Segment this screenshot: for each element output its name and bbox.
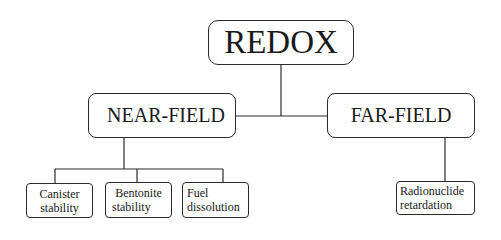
bentonite-stability-node: Bentonite stability xyxy=(105,182,172,218)
radionuclide-line-1: Radionuclide xyxy=(400,184,464,198)
canister-stability-node: Canister stability xyxy=(26,183,93,218)
bentonite-line-2: stability xyxy=(106,200,151,214)
near-field-label: NEAR-FIELD xyxy=(99,104,225,127)
bentonite-line-1: Bentonite xyxy=(115,186,162,200)
far-field-label: FAR-FIELD xyxy=(351,104,452,127)
redox-label: REDOX xyxy=(224,24,338,61)
far-field-node: FAR-FIELD xyxy=(327,93,475,138)
fuel-line-1: Fuel xyxy=(187,186,208,200)
fuel-dissolution-node: Fuel dissolution xyxy=(182,182,249,218)
near-field-node: NEAR-FIELD xyxy=(88,93,236,138)
radionuclide-retardation-node: Radionuclide retardation xyxy=(396,181,475,215)
radionuclide-line-2: retardation xyxy=(400,198,452,212)
canister-line-2: stability xyxy=(40,201,79,215)
redox-node: REDOX xyxy=(208,20,354,65)
fuel-line-2: dissolution xyxy=(187,200,240,214)
canister-line-1: Canister xyxy=(40,187,80,201)
